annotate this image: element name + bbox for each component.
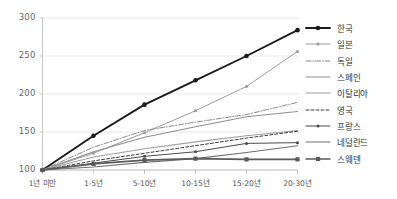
y-tick-label: 200 (10, 88, 36, 98)
series-marker-0 (193, 78, 198, 83)
x-axis-ticks (43, 170, 298, 174)
series-marker-8 (244, 157, 248, 161)
legend-label: 네덜란드 (337, 136, 368, 148)
series-marker-0 (244, 54, 249, 59)
legend-item-3[interactable]: 스페인 (305, 69, 393, 85)
series-marker-1 (194, 109, 197, 112)
series-marker-0 (295, 28, 300, 33)
legend-item-8[interactable]: 스웨덴 (305, 150, 393, 166)
legend-item-6[interactable]: 프랑스 (305, 118, 393, 134)
series-lines (43, 30, 298, 170)
legend-item-4[interactable]: 이탈리아 (305, 85, 393, 101)
chart-legend: 한국일본독일스페인이탈리아영국프랑스네덜란드스웨덴 (305, 20, 393, 167)
legend-item-0[interactable]: 한국 (305, 20, 393, 36)
legend-item-5[interactable]: 영국 (305, 101, 393, 117)
series-marker-1 (245, 85, 248, 88)
legend-swatch-icon (305, 70, 331, 84)
series-line-3 (43, 111, 298, 170)
y-tick-label: 250 (10, 50, 36, 60)
x-tick-label: 1-5년 (84, 177, 103, 188)
legend-swatch-icon (305, 135, 331, 149)
legend-swatch-icon (305, 54, 331, 68)
chart-figure: 300250200150100 1년 미만1-5년5-10년10-15년15-2… (0, 0, 397, 199)
x-tick-label: 5-10년 (133, 177, 157, 188)
legend-item-7[interactable]: 네덜란드 (305, 134, 393, 150)
series-marker-0 (91, 134, 96, 139)
legend-swatch-icon (305, 119, 331, 133)
legend-item-2[interactable]: 독일 (305, 53, 393, 69)
series-marker-6 (296, 141, 299, 144)
y-tick-label: 150 (10, 126, 36, 136)
legend-item-1[interactable]: 일본 (305, 36, 393, 52)
series-marker-8 (295, 157, 299, 161)
legend-swatch-icon (305, 103, 331, 117)
series-marker-6 (143, 155, 146, 158)
legend-swatch-icon (305, 86, 331, 100)
series-marker-6 (245, 142, 248, 145)
x-tick-label: 1년 미만 (29, 177, 57, 188)
legend-swatch-icon (305, 152, 331, 166)
series-marker-8 (142, 158, 146, 162)
legend-label: 영국 (337, 104, 353, 116)
x-tick-label: 15-20년 (232, 177, 260, 188)
gridlines (43, 18, 299, 170)
x-tick-label: 20-30년 (283, 177, 311, 188)
series-marker-6 (194, 150, 197, 153)
legend-label: 스웨덴 (337, 153, 360, 165)
legend-swatch-icon (305, 21, 331, 35)
legend-label: 일본 (337, 38, 353, 50)
x-tick-label: 10-15년 (181, 177, 209, 188)
series-marker-8 (40, 168, 44, 172)
series-line-1 (43, 51, 298, 170)
series-line-4 (43, 130, 298, 170)
legend-label: 이탈리아 (337, 87, 368, 99)
series-marker-0 (142, 102, 147, 107)
series-marker-1 (143, 131, 146, 134)
y-tick-label: 100 (10, 164, 36, 174)
series-marker-8 (91, 162, 95, 166)
series-marker-1 (92, 152, 95, 155)
legend-label: 프랑스 (337, 120, 360, 132)
series-marker-1 (296, 50, 299, 53)
legend-label: 독일 (337, 55, 353, 67)
y-tick-label: 300 (10, 12, 36, 22)
series-line-0 (43, 30, 298, 170)
legend-swatch-icon (305, 37, 331, 51)
legend-label: 스페인 (337, 71, 360, 83)
series-marker-8 (193, 157, 197, 161)
legend-label: 한국 (337, 22, 353, 34)
